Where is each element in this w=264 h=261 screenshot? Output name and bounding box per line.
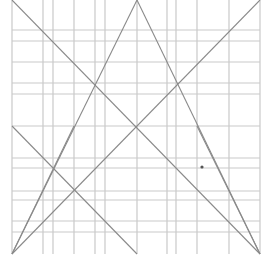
marker-dot bbox=[200, 165, 203, 168]
point-markers bbox=[200, 165, 203, 168]
line-construction-diagram bbox=[0, 0, 264, 261]
